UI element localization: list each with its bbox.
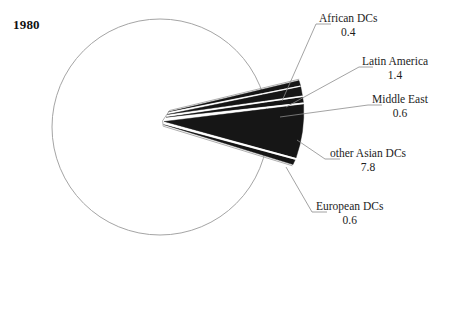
slice-label-name: African DCs — [319, 11, 377, 25]
slice-label-name: Middle East — [372, 92, 428, 106]
slice-label-name: Latin America — [362, 54, 428, 68]
pie-chart-figure: 1980 — [0, 0, 458, 312]
slice-label-value: 0.6 — [372, 106, 428, 120]
slice-label-latin-america: Latin America 1.4 — [362, 54, 428, 82]
slice-label-value: 7.8 — [330, 160, 406, 174]
slice-label-name: other Asian DCs — [330, 146, 406, 160]
slice-label-other-asian-dcs: other Asian DCs 7.8 — [330, 146, 406, 174]
slice-label-european-dcs: European DCs 0.6 — [316, 199, 383, 227]
slice-label-name: European DCs — [316, 199, 383, 213]
slice-label-middle-east: Middle East 0.6 — [372, 92, 428, 120]
slice-label-african-dcs: African DCs 0.4 — [319, 11, 377, 39]
slice-label-value: 0.6 — [316, 213, 383, 227]
slice-label-value: 0.4 — [319, 25, 377, 39]
slice-label-value: 1.4 — [362, 68, 428, 82]
